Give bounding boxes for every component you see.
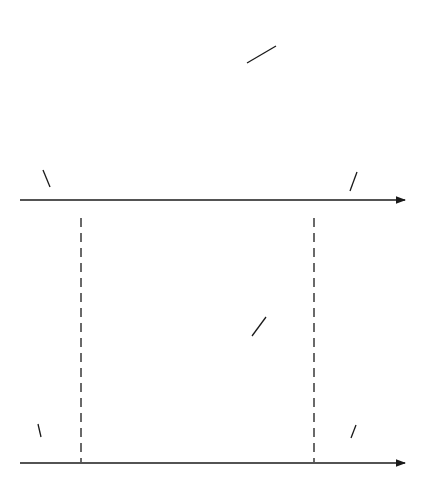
right-tail-pointer xyxy=(350,172,357,191)
projection-lines xyxy=(81,218,314,462)
left-tail-pointer xyxy=(38,424,41,437)
normal-label-pointer xyxy=(247,46,276,63)
normal-panel xyxy=(20,46,405,200)
normal-vs-t-distribution-diagram xyxy=(0,0,430,494)
left-tail-pointer xyxy=(43,170,50,187)
t-label-pointer xyxy=(252,317,266,336)
right-tail-pointer xyxy=(351,425,356,438)
t-panel xyxy=(0,0,405,463)
